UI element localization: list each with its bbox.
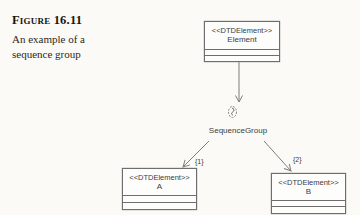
a-attributes-compartment (123, 195, 196, 202)
class-box-b-header: <<DTDElement>> B (272, 174, 345, 200)
class-box-b: <<DTDElement>> B (271, 173, 346, 214)
element-operations-compartment (205, 55, 279, 61)
figure-description-line1: An example of a (12, 33, 85, 45)
figure-description: An example of a sequence group (12, 32, 107, 62)
sequence-group-icon (229, 107, 237, 118)
sequence-group-label: SequenceGroup (193, 126, 283, 135)
class-box-element-header: <<DTDElement>> Element (205, 22, 279, 49)
figure-caption: Figure 16.11 An example of a sequence gr… (12, 13, 107, 62)
class-box-a: <<DTDElement>> A (122, 168, 197, 210)
edge-label-2: {2} (293, 156, 302, 163)
b-name: B (272, 187, 345, 197)
element-stereotype: <<DTDElement>> (205, 26, 279, 35)
element-name: Element (205, 35, 279, 45)
group-to-b-arrow (264, 141, 291, 171)
b-operations-compartment (272, 206, 345, 213)
class-box-element: <<DTDElement>> Element (204, 21, 280, 62)
a-operations-compartment (123, 202, 196, 209)
figure-description-line2: sequence group (12, 48, 81, 60)
edge-label-1: {1} (195, 158, 204, 165)
a-stereotype: <<DTDElement>> (123, 173, 196, 182)
figure-label: Figure 16.11 (12, 13, 107, 28)
b-stereotype: <<DTDElement>> (272, 178, 345, 187)
a-name: A (123, 182, 196, 192)
class-box-a-header: <<DTDElement>> A (123, 169, 196, 195)
